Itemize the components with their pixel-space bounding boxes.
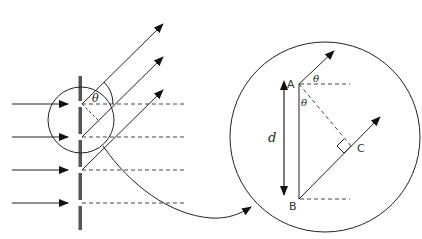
grating-panel: θ: [12, 24, 251, 230]
label-d: d: [268, 130, 276, 145]
theta-label-top: θ: [313, 73, 319, 84]
magnify-connector-curve: [103, 146, 251, 218]
magnified-panel: A B C d θ θ: [230, 42, 420, 232]
diagram-canvas: θ A B C d θ θ: [0, 0, 422, 239]
path-difference-dashed: [82, 104, 100, 122]
label-a: A: [287, 78, 295, 91]
theta-label-left: θ: [92, 92, 99, 105]
theta-label-inner: θ: [301, 97, 307, 108]
label-b: B: [289, 200, 297, 213]
segment-ac-dashed: [299, 84, 351, 146]
ray-from-b: [299, 117, 380, 199]
incident-rays: [12, 104, 68, 203]
diffraction-diagram: θ A B C d θ θ: [0, 0, 422, 239]
theta-arc: [104, 82, 113, 104]
label-c: C: [357, 142, 365, 155]
magnify-circle-large: [230, 42, 420, 232]
right-angle-marker: [337, 139, 351, 153]
